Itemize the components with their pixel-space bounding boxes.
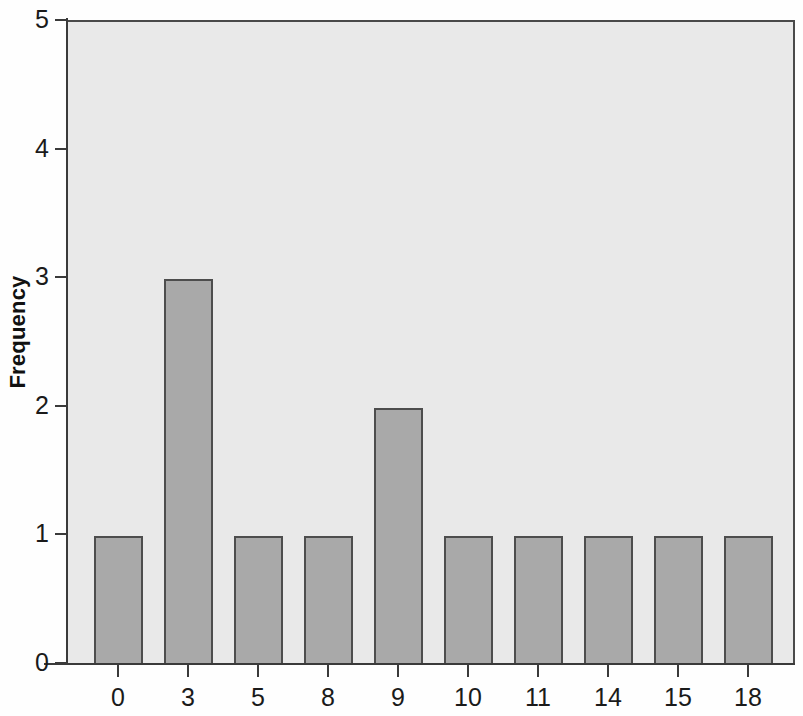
y-tick-mark xyxy=(55,276,66,278)
x-tick-mark xyxy=(117,665,119,677)
x-axis-line xyxy=(44,663,795,665)
x-tick-mark xyxy=(537,665,539,677)
bar xyxy=(374,408,423,665)
x-tick-label: 10 xyxy=(433,685,503,710)
x-tick-mark xyxy=(677,665,679,677)
y-axis-title-label: Frequency xyxy=(5,275,31,388)
x-tick-mark xyxy=(397,665,399,677)
y-tick-label: 3 xyxy=(9,264,49,289)
y-axis-line xyxy=(66,18,68,665)
y-tick-mark xyxy=(55,533,66,535)
bar-chart-figure: Frequency 012345 035891011141518 xyxy=(0,0,803,716)
y-tick-label: 0 xyxy=(9,650,49,675)
y-tick-label: 4 xyxy=(9,136,49,161)
bar xyxy=(94,536,143,665)
x-tick-mark xyxy=(327,665,329,677)
plot-area xyxy=(68,20,795,665)
y-tick-label: 2 xyxy=(9,393,49,418)
x-tick-mark xyxy=(607,665,609,677)
y-tick-mark xyxy=(55,19,66,21)
bars-container xyxy=(68,22,793,665)
bar xyxy=(584,536,633,665)
x-tick-mark xyxy=(747,665,749,677)
y-tick-label: 5 xyxy=(9,7,49,32)
x-tick-mark xyxy=(257,665,259,677)
x-tick-label: 8 xyxy=(293,685,363,710)
y-tick-mark xyxy=(55,148,66,150)
y-tick-label: 1 xyxy=(9,521,49,546)
y-tick-mark xyxy=(55,405,66,407)
y-axis-title: Frequency xyxy=(0,0,36,663)
bar xyxy=(724,536,773,665)
x-tick-label: 5 xyxy=(223,685,293,710)
x-tick-label: 15 xyxy=(643,685,713,710)
x-tick-label: 14 xyxy=(573,685,643,710)
x-tick-label: 3 xyxy=(153,685,223,710)
x-tick-mark xyxy=(187,665,189,677)
bar xyxy=(234,536,283,665)
bar xyxy=(304,536,353,665)
y-tick-mark xyxy=(55,662,66,664)
x-tick-label: 0 xyxy=(83,685,153,710)
bar xyxy=(514,536,563,665)
x-tick-label: 18 xyxy=(713,685,783,710)
x-tick-mark xyxy=(467,665,469,677)
bar xyxy=(444,536,493,665)
bar xyxy=(654,536,703,665)
bar xyxy=(164,279,213,665)
x-tick-label: 9 xyxy=(363,685,433,710)
x-tick-label: 11 xyxy=(503,685,573,710)
